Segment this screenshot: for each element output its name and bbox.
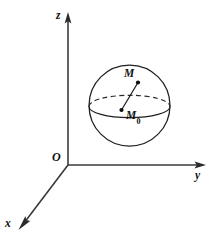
axis-group-x (19, 165, 69, 230)
point-label-m-text: M (124, 67, 134, 79)
point-marker-m0 (119, 108, 123, 112)
x-axis-line (24, 165, 68, 223)
radius-segment (122, 83, 139, 111)
axis-group-z (65, 12, 72, 165)
z-axis-label: z (56, 10, 60, 22)
point-label-m: M (124, 68, 134, 80)
y-axis-label: y (195, 170, 200, 182)
coordinate-sphere-diagram (0, 0, 212, 242)
point-label-m0: M0 (126, 110, 140, 124)
axis-group-y (68, 162, 206, 169)
origin-label: O (52, 151, 61, 163)
x-axis-label: x (5, 218, 11, 230)
point-label-m0-text: M (126, 109, 136, 121)
point-marker-m (136, 80, 140, 84)
point-label-m0-subscript: 0 (136, 117, 140, 126)
figure-canvas: z y x O M M0 (0, 0, 212, 242)
